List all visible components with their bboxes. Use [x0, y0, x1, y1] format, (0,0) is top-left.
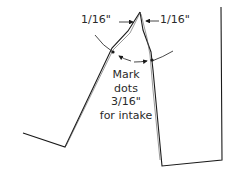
note-line-1: Mark — [98, 68, 154, 82]
note-line-3: 3/16" — [98, 95, 154, 109]
left-arc — [95, 35, 113, 52]
intake-dimension-arrows — [119, 56, 147, 62]
right-dot-marker — [150, 58, 153, 61]
measure-arrows — [119, 21, 159, 22]
left-dot-marker — [111, 50, 114, 53]
intake-note: Mark dots 3/16" for intake — [98, 68, 154, 122]
pivot-arcs — [95, 35, 173, 61]
left-measure-label: 1/16" — [81, 14, 111, 26]
right-arc — [152, 51, 173, 61]
right-measure-label: 1/16" — [160, 14, 190, 26]
note-line-4: for intake — [98, 109, 154, 123]
note-line-2: dots — [98, 82, 154, 96]
